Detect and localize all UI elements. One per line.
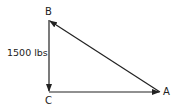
vertex-label-c: C — [45, 96, 52, 106]
edge-a-to-b — [50, 21, 160, 92]
force-magnitude-label: 1500 lbs — [7, 48, 48, 58]
vertex-label-a: A — [163, 87, 170, 97]
vertex-label-b: B — [45, 7, 52, 17]
